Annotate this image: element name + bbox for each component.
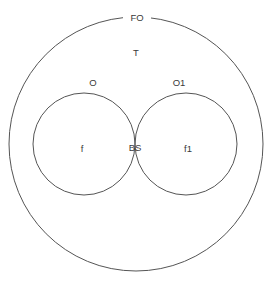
set-label-left-O: O <box>89 77 96 88</box>
region-label-f: f <box>81 143 84 154</box>
region-label-T: T <box>133 47 139 58</box>
venn-diagram-svg: FO O O1 T f BS f1 <box>0 0 273 291</box>
set-label-right-O1: O1 <box>173 77 186 88</box>
region-label-f1: f1 <box>184 143 192 154</box>
venn-diagram-canvas: FO O O1 T f BS f1 <box>0 0 273 291</box>
region-label-BS: BS <box>129 142 142 153</box>
set-circle-left-O <box>33 93 135 195</box>
universe-label-FO: FO <box>130 12 143 23</box>
